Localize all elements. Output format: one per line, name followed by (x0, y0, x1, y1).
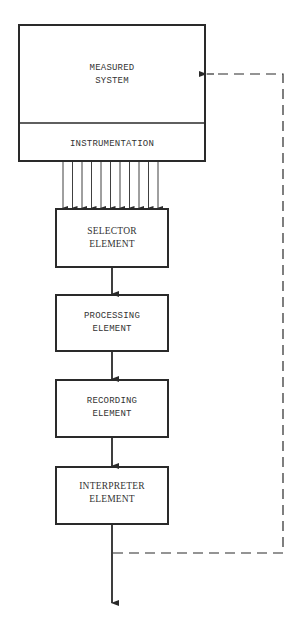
recording-element-label: RECORDING ELEMENT (56, 395, 168, 421)
selector-line2: ELEMENT (56, 238, 168, 251)
processing-element-label: PROCESSING ELEMENT (56, 310, 168, 336)
measured-label-line1: MEASURED (19, 62, 205, 75)
selector-line1: SELECTOR (56, 225, 168, 238)
measured-system-label: MEASURED SYSTEM (19, 62, 205, 88)
interpreter-line2: ELEMENT (56, 493, 168, 506)
interpreter-element-label: INTERPRETER ELEMENT (56, 480, 168, 506)
measured-label-line2: SYSTEM (19, 75, 205, 88)
selector-element-label: SELECTOR ELEMENT (56, 225, 168, 251)
processing-line2: ELEMENT (56, 323, 168, 336)
interpreter-line1: INTERPRETER (56, 480, 168, 493)
instrumentation-label: INSTRUMENTATION (19, 138, 205, 151)
recording-line1: RECORDING (56, 395, 168, 408)
recording-line2: ELEMENT (56, 408, 168, 421)
signal-arrows (63, 162, 158, 208)
processing-line1: PROCESSING (56, 310, 168, 323)
